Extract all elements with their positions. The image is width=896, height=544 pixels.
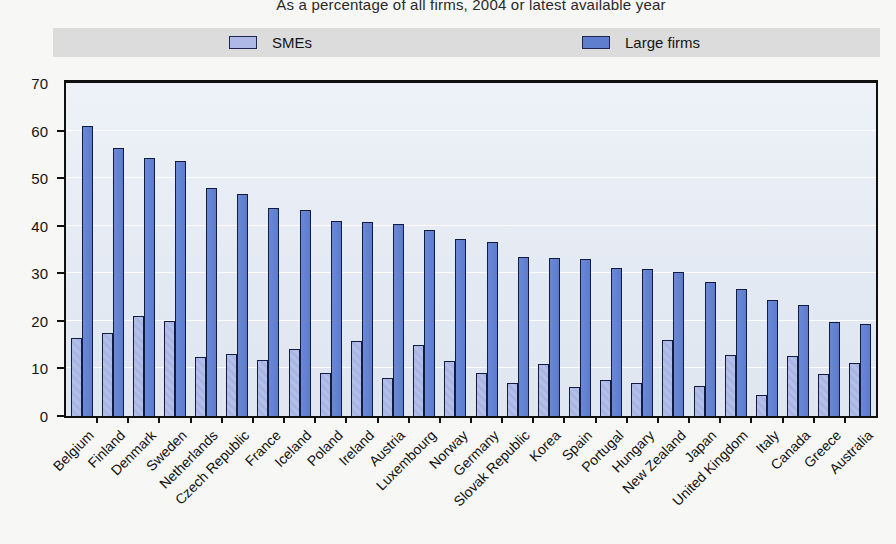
- y-tick-label-40: 40: [31, 217, 48, 234]
- bar-smes-belgium: [71, 338, 82, 416]
- x-tick-mark-25: [844, 418, 846, 423]
- bar-group-netherlands: [191, 83, 222, 416]
- x-tick-mark-19: [657, 418, 659, 423]
- bar-large-firms-korea: [549, 258, 560, 416]
- bar-smes-france: [257, 360, 268, 416]
- x-tick-mark-22: [750, 418, 752, 423]
- y-tick-label-0: 0: [40, 408, 48, 425]
- y-tick-label-60: 60: [31, 122, 48, 139]
- y-tick-label-70: 70: [31, 75, 48, 92]
- legend: SMEs Large firms: [53, 28, 880, 57]
- bar-group-luxembourg: [409, 83, 440, 416]
- bar-large-firms-denmark: [144, 158, 155, 416]
- x-axis: BelgiumFinlandDenmarkSwedenNetherlandsCz…: [64, 418, 878, 544]
- y-tick-mark-30: [57, 272, 64, 274]
- x-tick-mark-17: [595, 418, 597, 423]
- bar-large-firms-luxembourg: [424, 230, 435, 416]
- bar-smes-ireland: [351, 341, 362, 416]
- x-tick-mark-2: [127, 418, 129, 423]
- x-tick-mark-14: [501, 418, 503, 423]
- y-tick-mark-20: [57, 320, 64, 322]
- x-tick-mark-11: [408, 418, 410, 423]
- bar-large-firms-slovak-republic: [518, 257, 529, 416]
- y-tick-mark-50: [57, 177, 64, 179]
- bar-group-portugal: [596, 83, 627, 416]
- x-tick-mark-1: [96, 418, 98, 423]
- bar-smes-germany: [476, 373, 487, 416]
- bar-smes-netherlands: [195, 357, 206, 416]
- bar-group-spain: [564, 83, 595, 416]
- bar-large-firms-united-kingdom: [736, 289, 747, 416]
- bar-group-belgium: [66, 83, 97, 416]
- bar-large-firms-spain: [580, 259, 591, 416]
- bar-large-firms-canada: [798, 305, 809, 416]
- bar-large-firms-france: [268, 208, 279, 416]
- chart-subtitle: As a percentage of all firms, 2004 or la…: [64, 0, 878, 13]
- x-tick-mark-13: [470, 418, 472, 423]
- y-tick-label-30: 30: [31, 265, 48, 282]
- bar-group-italy: [751, 83, 782, 416]
- bar-group-finland: [97, 83, 128, 416]
- x-tick-mark-4: [190, 418, 192, 423]
- bar-smes-greece: [818, 374, 829, 416]
- bar-large-firms-germany: [487, 242, 498, 416]
- bar-group-france: [253, 83, 284, 416]
- y-tick-label-20: 20: [31, 312, 48, 329]
- bar-large-firms-ireland: [362, 222, 373, 416]
- bar-group-austria: [378, 83, 409, 416]
- bar-group-australia: [845, 83, 876, 416]
- large-firms-color-swatch: [582, 36, 610, 49]
- bar-smes-australia: [849, 363, 860, 416]
- y-tick-mark-40: [57, 225, 64, 227]
- bar-large-firms-sweden: [175, 161, 186, 416]
- bar-group-sweden: [159, 83, 190, 416]
- bar-group-czech-republic: [222, 83, 253, 416]
- bar-large-firms-netherlands: [206, 188, 217, 416]
- x-tick-mark-10: [377, 418, 379, 423]
- bar-large-firms-norway: [455, 239, 466, 416]
- bar-smes-united-kingdom: [725, 355, 736, 416]
- bar-smes-sweden: [164, 321, 175, 416]
- bar-group-new-zealand: [658, 83, 689, 416]
- bar-group-poland: [315, 83, 346, 416]
- x-tick-mark-3: [158, 418, 160, 423]
- bar-group-denmark: [128, 83, 159, 416]
- x-tick-mark-23: [782, 418, 784, 423]
- large-firms-legend-label: Large firms: [625, 34, 700, 51]
- bar-smes-hungary: [631, 383, 642, 416]
- bar-group-slovak-republic: [502, 83, 533, 416]
- bar-group-japan: [689, 83, 720, 416]
- smes-legend-label: SMEs: [272, 34, 312, 51]
- bar-group-canada: [783, 83, 814, 416]
- bar-smes-japan: [694, 386, 705, 416]
- bar-smes-slovak-republic: [507, 383, 518, 416]
- bar-large-firms-finland: [113, 148, 124, 416]
- bar-large-firms-belgium: [82, 126, 93, 416]
- bar-smes-norway: [444, 361, 455, 416]
- bar-smes-korea: [538, 364, 549, 416]
- bar-group-greece: [814, 83, 845, 416]
- x-tick-mark-6: [252, 418, 254, 423]
- smes-color-swatch: [229, 36, 257, 49]
- legend-entry-large-firms: Large firms: [582, 28, 700, 57]
- bar-group-iceland: [284, 83, 315, 416]
- x-tick-mark-18: [626, 418, 628, 423]
- bar-large-firms-greece: [829, 322, 840, 416]
- bar-large-firms-austria: [393, 224, 404, 416]
- y-tick-label-10: 10: [31, 360, 48, 377]
- x-tick-mark-12: [439, 418, 441, 423]
- y-axis: 010203040506070: [0, 80, 64, 418]
- bar-large-firms-japan: [705, 282, 716, 416]
- bar-smes-poland: [320, 373, 331, 416]
- bar-large-firms-czech-republic: [237, 194, 248, 416]
- bar-smes-italy: [756, 395, 767, 416]
- bar-group-norway: [440, 83, 471, 416]
- bar-group-germany: [471, 83, 502, 416]
- x-tick-mark-15: [532, 418, 534, 423]
- plot-area: [64, 80, 878, 418]
- bar-smes-czech-republic: [226, 354, 237, 416]
- y-tick-label-50: 50: [31, 170, 48, 187]
- bar-large-firms-hungary: [642, 269, 653, 416]
- bar-smes-austria: [382, 378, 393, 416]
- bar-smes-denmark: [133, 316, 144, 416]
